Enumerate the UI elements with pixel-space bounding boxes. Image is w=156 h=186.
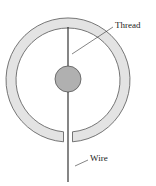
- wire-label: Wire: [90, 153, 108, 163]
- wire-leader-line: [75, 160, 88, 166]
- diagram-canvas: Thread Wire: [0, 0, 156, 186]
- charged-ball: [55, 66, 81, 92]
- thread-label: Thread: [115, 20, 141, 30]
